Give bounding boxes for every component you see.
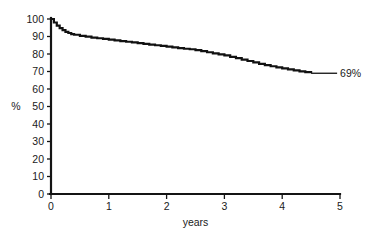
survival-curve-figure: 0102030405060708090100 012345 % years 69… xyxy=(0,0,372,234)
annotation-value-label: 69% xyxy=(340,67,361,79)
y-tick-label: 30 xyxy=(32,135,44,147)
chart-canvas: 0102030405060708090100 012345 % years 69… xyxy=(0,0,372,234)
y-axis-group: 0102030405060708090100 xyxy=(26,13,51,200)
x-axis-title: years xyxy=(183,216,209,228)
y-axis-ticks: 0102030405060708090100 xyxy=(26,13,51,200)
y-tick-label: 100 xyxy=(26,13,44,25)
x-axis-ticks: 012345 xyxy=(48,194,343,212)
survival-curve-line xyxy=(51,19,311,73)
x-tick-label: 4 xyxy=(279,200,285,212)
x-tick-label: 2 xyxy=(164,200,170,212)
y-tick-label: 50 xyxy=(32,100,44,112)
y-tick-label: 90 xyxy=(32,30,44,42)
y-tick-label: 70 xyxy=(32,65,44,77)
annotation-group: 69% xyxy=(311,67,361,79)
y-tick-label: 0 xyxy=(38,188,44,200)
y-axis-title: % xyxy=(11,100,20,112)
x-tick-label: 1 xyxy=(106,200,112,212)
y-tick-label: 80 xyxy=(32,48,44,60)
x-axis-group: 012345 xyxy=(48,194,343,212)
y-tick-label: 20 xyxy=(32,153,44,165)
y-tick-label: 60 xyxy=(32,83,44,95)
x-tick-label: 0 xyxy=(48,200,54,212)
y-tick-label: 40 xyxy=(32,118,44,130)
x-tick-label: 5 xyxy=(337,200,343,212)
x-tick-label: 3 xyxy=(221,200,227,212)
y-tick-label: 10 xyxy=(32,170,44,182)
